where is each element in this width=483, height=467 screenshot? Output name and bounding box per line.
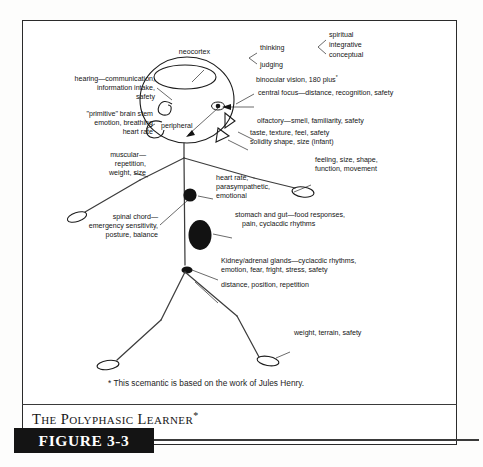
kidney-organ [182,266,193,273]
figure-number-tab: FIGURE 3-3 [14,428,154,453]
lead-taste [228,140,248,150]
label-olfactory: olfactory—smell, familiarity, safety [257,117,364,125]
label-heart-line2: parasympathetic, [216,183,270,191]
label-taste-line2: solidity shape, size (infant) [250,138,334,146]
label-hearing-line1: hearing—communication, [75,75,155,83]
label-spiritual: spiritual [329,31,354,39]
label-central-focus: central focus—distance, recognition, saf… [258,89,394,97]
schematic-illustration: peripheral [22,20,457,380]
label-stomach-line1: stomach and gut—food responses, [235,211,345,219]
label-taste-line1: taste, texture, feel, safety [250,129,330,137]
label-peripheral: peripheral [161,122,193,130]
lead-hearing [157,88,172,100]
label-thinking: thinking [260,44,285,52]
heart-organ [183,188,196,201]
label-binocular: binocular vision, 180 plus* [256,74,338,84]
label-heart-line3: emotional [216,192,247,200]
right-foot [256,355,279,368]
label-feeling-line2: function, movement [315,165,377,173]
label-brain-stem-line3: heart rate [123,128,153,136]
left-forearm [85,180,140,212]
label-spinal-line3: posture, balance [106,231,159,239]
label-feeling-line1: feeling, size, shape, [315,156,378,164]
label-muscular-line1: muscular— [110,151,147,159]
left-thigh [161,272,185,320]
label-spinal-line1: spinal chord— [113,213,159,221]
label-hearing-line3: safety [136,93,155,101]
lead-stomach [213,234,232,238]
text-labels: neocortex thinking judging spiritual int… [75,31,394,337]
label-conceptual: conceptual [329,51,364,59]
stomach-organ [189,220,212,250]
label-judging: judging [259,61,283,69]
figure-footnote: * This scemantic is based on the work of… [108,378,304,388]
scanned-page: peripheral [0,0,483,467]
pupil [216,104,221,109]
right-hand [291,186,314,199]
right-thigh [185,272,237,316]
caption-zone: THE POLYPHASIC LEARNER* FIGURE 3-3 [22,404,457,445]
label-brain-stem-line1: "primitive" brain stem [86,110,153,118]
label-weight-terrain: weight, terrain, safety [293,329,362,337]
running-title-asterisk: * [193,410,198,421]
label-hearing-line2: information intake, [97,84,155,92]
lead-weight-terrain [276,352,290,358]
lead-heart [198,196,213,199]
label-muscular-line3: weight, size [108,169,146,177]
right-shin [237,316,259,357]
lead-neocortex [192,70,204,82]
label-muscular-line2: repetition, [115,160,146,168]
label-stomach-line2: pain, cyclacdic rhythms [242,220,316,228]
label-kidney-line1: Kidney/adrenal glands—cyclacdic rhythms, [221,257,356,265]
label-spinal-line2: emergency sensitivity, [89,222,158,230]
bracket-spiritual-group [318,40,326,54]
label-distance: distance, position, repetition [221,281,309,289]
left-foot [96,359,119,371]
lead-binocular [236,94,254,104]
mouth-shape [216,128,229,142]
caption-divider-rule [22,404,457,405]
neocortex-shape [154,65,216,89]
nose-shape [225,113,235,128]
running-title: THE POLYPHASIC LEARNER* [32,410,199,428]
label-brain-stem-line2: emotion, breathing [94,119,153,127]
head-group: peripheral [140,57,254,158]
left-hand [66,210,88,225]
lead-distance [195,282,218,303]
label-heart-line1: heart rate, [216,174,248,182]
lead-kidney [192,270,218,280]
lead-spinal [160,200,188,225]
label-kidney-line2: emotion, fear, fright, stress, safety [221,266,328,274]
figure-tab-rule [154,439,479,441]
label-integrative: integrative [329,41,362,49]
left-shin [117,320,161,360]
label-neocortex: neocortex [179,48,211,56]
bracket-thinking-judging [249,53,257,64]
peripheral-arrow-head [186,130,195,137]
running-title-text: THE POLYPHASIC LEARNER [32,411,193,427]
spine [184,158,185,265]
ear-shape [158,101,172,115]
